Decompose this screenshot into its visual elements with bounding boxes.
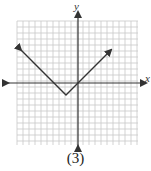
coordinate-graph: x y <box>0 0 151 171</box>
x-axis-label: x <box>144 72 150 84</box>
y-axis-label: y <box>73 0 79 12</box>
graph-caption: (3) <box>0 150 151 167</box>
